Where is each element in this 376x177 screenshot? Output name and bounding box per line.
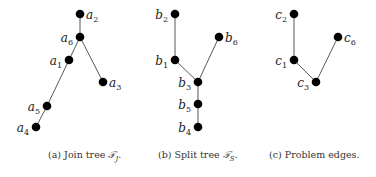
- node-a5: [43, 102, 52, 111]
- label-a6: a6: [61, 31, 73, 47]
- caption-b-symbol: 𝒯: [223, 149, 230, 160]
- label-b2: b2: [155, 8, 168, 24]
- edge-b6-b3: [198, 37, 219, 82]
- label-c3: c3: [297, 76, 309, 92]
- caption-problem-edges: (c) Problem edges.: [269, 149, 359, 160]
- node-b4: [194, 123, 203, 132]
- label-a3: a3: [109, 76, 121, 92]
- node-c3: [312, 78, 321, 87]
- label-a2: a2: [86, 8, 98, 24]
- caption-join-tree: (a) Join tree 𝒯J.: [48, 149, 121, 163]
- node-b6: [215, 33, 224, 42]
- node-a6: [76, 33, 85, 42]
- node-b1: [171, 56, 180, 65]
- label-a5: a5: [28, 100, 40, 116]
- node-a4: [32, 123, 41, 132]
- node-c6: [334, 33, 343, 42]
- label-c1: c1: [275, 54, 287, 70]
- node-a3: [99, 78, 108, 87]
- edge-c6-c3: [316, 37, 338, 82]
- caption-a-suffix: .: [118, 149, 121, 160]
- caption-a-prefix: (a) Join tree: [48, 149, 108, 160]
- node-c2: [290, 10, 299, 19]
- node-b5: [194, 100, 203, 109]
- label-b6: b6: [225, 31, 238, 47]
- edge-a6-a3: [80, 37, 103, 82]
- caption-b-prefix: (b) Split tree: [158, 149, 223, 160]
- label-a4: a4: [17, 121, 29, 137]
- label-b5: b5: [178, 98, 191, 114]
- caption-b-suffix: .: [234, 149, 237, 160]
- label-a1: a1: [50, 54, 62, 70]
- label-b4: b4: [178, 121, 191, 137]
- node-b3: [194, 78, 203, 87]
- node-c1: [290, 56, 299, 65]
- caption-c-text: (c) Problem edges.: [269, 149, 359, 160]
- node-b2: [171, 10, 180, 19]
- label-b1: b1: [155, 54, 168, 70]
- node-a1: [65, 56, 74, 65]
- node-a2: [76, 10, 85, 19]
- label-c6: c6: [344, 31, 356, 47]
- labels-layer: a2a6a1a3a5a4b2b6b1b3b5b4c2c6c1c3: [17, 8, 356, 137]
- label-b3: b3: [178, 76, 191, 92]
- caption-split-tree: (b) Split tree 𝒯S.: [158, 149, 237, 163]
- label-c2: c2: [275, 8, 287, 24]
